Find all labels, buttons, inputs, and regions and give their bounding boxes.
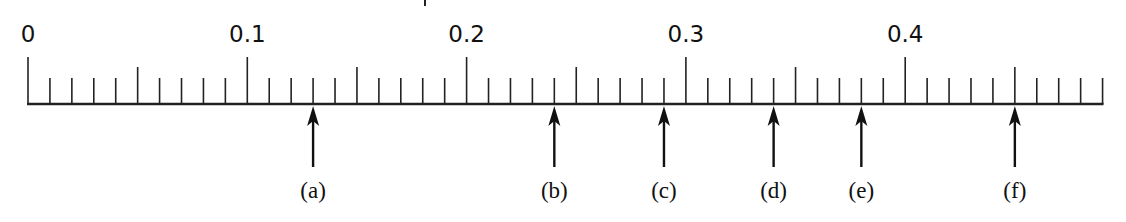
arrow-label: (d): [760, 178, 787, 203]
arrow-marker: (b): [541, 106, 568, 203]
arrow-label: (f): [1003, 178, 1026, 203]
arrow-marker: (d): [760, 106, 787, 203]
tick-marks: [28, 57, 1103, 104]
arrow-marker: (c): [651, 106, 677, 203]
number-line-diagram: 00.10.20.30.4 (a)(b)(c)(d)(e)(f): [0, 0, 1126, 222]
major-tick-label: 0: [21, 21, 36, 47]
major-tick-label: 0.2: [448, 21, 485, 47]
arrow-marker: (a): [300, 106, 326, 203]
arrow-marker: (f): [1003, 106, 1026, 203]
arrow-label: (b): [541, 178, 568, 203]
arrow-label: (e): [849, 178, 875, 203]
tick-labels: 00.10.20.30.4: [21, 21, 924, 47]
major-tick-label: 0.3: [668, 21, 705, 47]
arrow-label: (c): [651, 178, 677, 203]
major-tick-label: 0.4: [887, 21, 924, 47]
cropped-text-fragment: [424, 0, 426, 6]
major-tick-label: 0.1: [229, 21, 266, 47]
value-arrows: (a)(b)(c)(d)(e)(f): [300, 106, 1026, 203]
arrow-marker: (e): [849, 106, 875, 203]
arrow-label: (a): [300, 178, 326, 203]
